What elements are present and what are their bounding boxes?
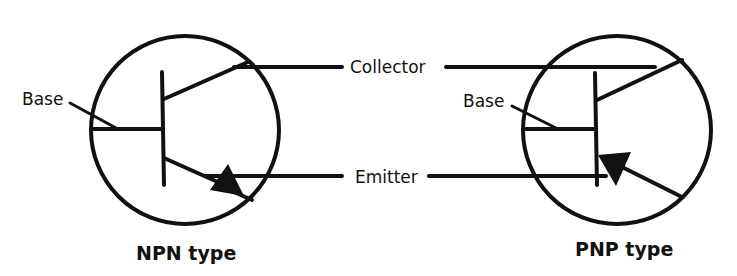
collector-label: Collector	[350, 57, 426, 77]
pnp-base-pointer	[512, 106, 556, 128]
npn-base-label: Base	[22, 89, 63, 109]
pnp-title: PNP type	[575, 238, 673, 260]
npn-emitter-lead	[164, 158, 220, 183]
pnp-emitter-lead	[620, 166, 682, 197]
pnp-symbol	[429, 36, 711, 224]
transistor-diagram: Collector Emitter Base Base NPN type PNP…	[0, 0, 737, 276]
pnp-base-label: Base	[463, 91, 504, 111]
emitter-label: Emitter	[355, 167, 418, 187]
npn-title: NPN type	[136, 242, 236, 264]
npn-symbol	[70, 36, 342, 224]
